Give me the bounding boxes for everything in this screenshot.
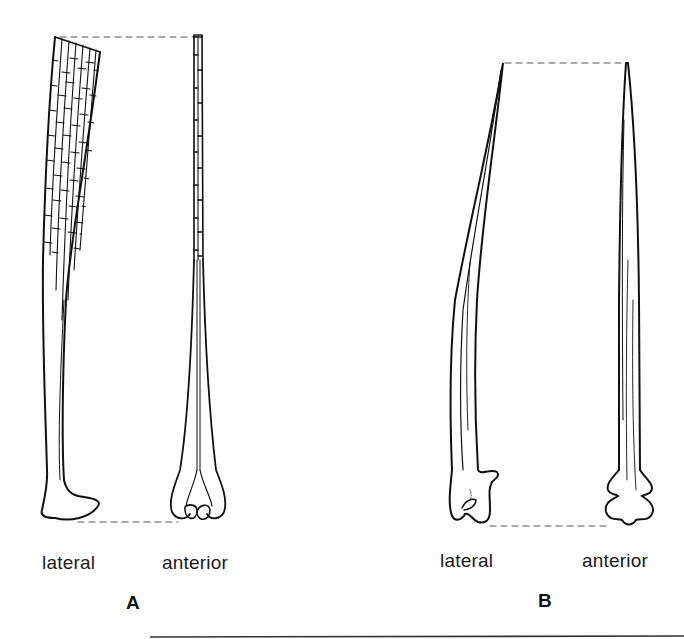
panel-b-anterior-label: anterior [582, 550, 648, 572]
panel-a-letter: A [126, 592, 140, 614]
bottom-rule [150, 636, 684, 637]
panel-a-lateral-drawing [42, 37, 196, 520]
panel-b-letter: B [538, 590, 552, 612]
panel-b-lateral-label: lateral [440, 550, 493, 572]
panel-b-lateral-drawing [450, 63, 626, 523]
panel-a-anterior-label: anterior [162, 552, 228, 574]
panel-a-lateral-label: lateral [42, 552, 95, 574]
panel-b-anterior-drawing [490, 63, 653, 526]
panel-a-anterior-drawing [78, 35, 225, 522]
bone-figure [0, 0, 684, 639]
